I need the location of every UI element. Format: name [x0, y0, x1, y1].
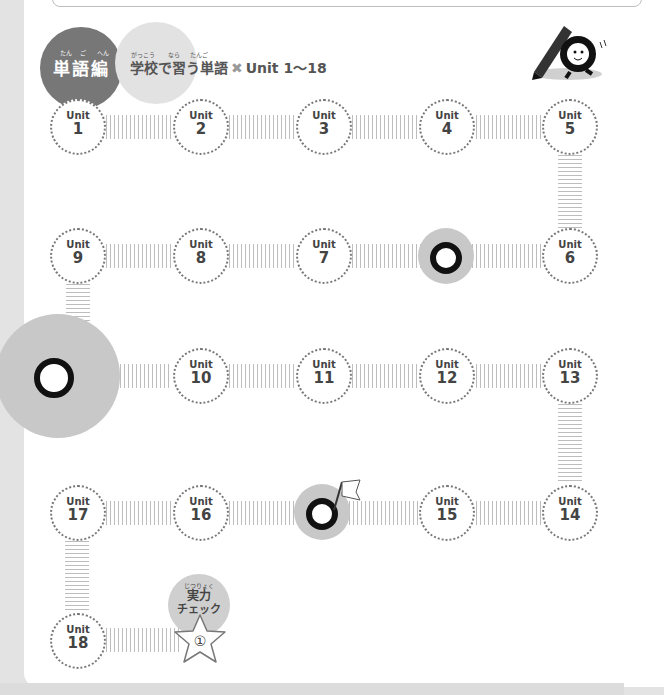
path-connector	[229, 115, 295, 139]
path-connector	[476, 501, 542, 525]
bottom-strip	[0, 683, 624, 695]
path-connector	[106, 628, 182, 652]
unit-17[interactable]: Unit17	[50, 485, 106, 541]
page-title: 学校で習う単語✖Unit 1～18	[130, 57, 327, 77]
unit-5[interactable]: Unit5	[542, 99, 598, 155]
unit-16[interactable]: Unit16	[173, 485, 229, 541]
unit-15[interactable]: Unit15	[419, 485, 475, 541]
title-range: Unit 1～18	[246, 60, 327, 76]
unit-14[interactable]: Unit14	[542, 485, 598, 541]
svg-text:①: ①	[194, 633, 207, 649]
path-connector	[558, 155, 582, 229]
pencil-mascot-icon	[520, 12, 610, 82]
unit-13[interactable]: Unit13	[542, 348, 598, 404]
unit-7[interactable]: Unit7	[296, 228, 352, 284]
path-connector	[65, 541, 89, 613]
path-connector	[106, 501, 172, 525]
section-label: 単語編	[50, 55, 112, 80]
path-connector	[476, 364, 542, 388]
unit-11[interactable]: Unit11	[296, 348, 352, 404]
path-connector	[106, 244, 172, 268]
path-connector	[352, 364, 418, 388]
unit-8[interactable]: Unit8	[173, 228, 229, 284]
unit-4[interactable]: Unit4	[419, 99, 475, 155]
unit-6[interactable]: Unit6	[542, 228, 598, 284]
confused-mascot-icon	[418, 228, 474, 284]
path-connector	[558, 404, 582, 484]
unit-18[interactable]: Unit18	[50, 613, 106, 669]
surprised-mascot-icon	[0, 314, 120, 438]
unit-3[interactable]: Unit3	[296, 99, 352, 155]
unit-12[interactable]: Unit12	[419, 348, 475, 404]
path-connector	[229, 244, 295, 268]
top-box	[52, 0, 642, 7]
unit-10[interactable]: Unit10	[173, 348, 229, 404]
title-main: 学校で習う単語	[130, 60, 228, 76]
unit-2[interactable]: Unit2	[173, 99, 229, 155]
flag-icon	[330, 478, 364, 512]
unit-9[interactable]: Unit9	[50, 228, 106, 284]
path-connector	[476, 115, 542, 139]
path-connector	[120, 364, 172, 388]
unit-1[interactable]: Unit1	[50, 99, 106, 155]
star-icon[interactable]: ①	[172, 612, 228, 666]
path-connector	[352, 115, 418, 139]
path-connector	[229, 364, 295, 388]
path-connector	[106, 115, 172, 139]
cross-mark-icon: ✖	[231, 60, 243, 76]
